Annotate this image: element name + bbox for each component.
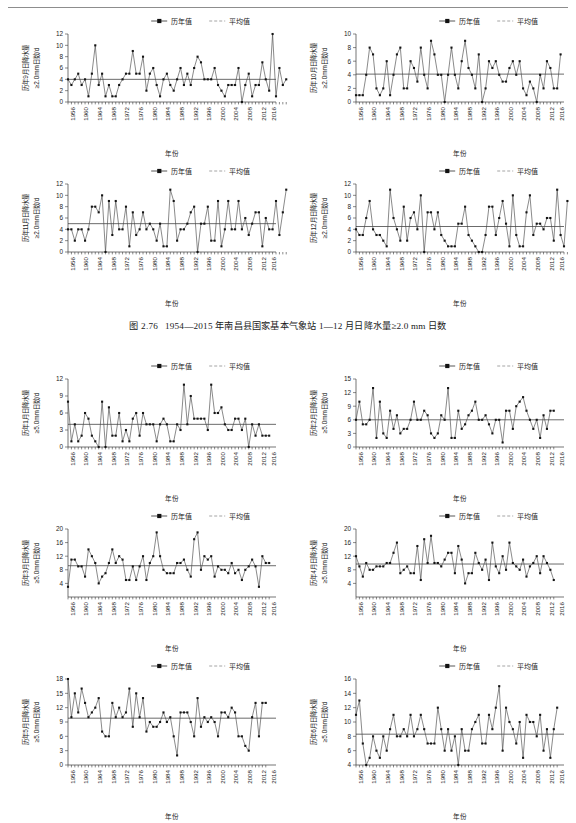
x-tick-label: 1956 bbox=[69, 256, 76, 270]
data-point bbox=[382, 735, 384, 737]
data-point bbox=[430, 211, 432, 213]
data-point bbox=[502, 81, 504, 83]
y-tick-label: 0 bbox=[347, 248, 351, 255]
chart-legend: 历年值平均值 bbox=[439, 512, 538, 521]
data-point bbox=[74, 423, 76, 425]
data-point bbox=[525, 576, 527, 578]
x-tick-label: 1988 bbox=[178, 769, 185, 783]
data-point bbox=[536, 101, 538, 103]
data-point bbox=[104, 735, 106, 737]
data-point bbox=[539, 74, 541, 76]
data-point bbox=[457, 545, 459, 547]
y-tick-label: 10 bbox=[56, 192, 64, 199]
data-point bbox=[197, 531, 199, 533]
data-point bbox=[173, 572, 175, 574]
x-tick-label: 1984 bbox=[164, 601, 171, 615]
data-point bbox=[515, 234, 517, 236]
data-point bbox=[152, 423, 154, 425]
data-point bbox=[525, 211, 527, 213]
data-point bbox=[403, 206, 405, 208]
data-point bbox=[485, 234, 487, 236]
data-point bbox=[389, 94, 391, 96]
data-point bbox=[162, 78, 164, 80]
data-point bbox=[464, 750, 466, 752]
data-point bbox=[491, 728, 493, 730]
data-point bbox=[502, 555, 504, 557]
legend-mean-label: 平均值 bbox=[517, 662, 538, 671]
data-point bbox=[179, 429, 181, 431]
data-point bbox=[440, 74, 442, 76]
data-point bbox=[467, 572, 469, 574]
data-point bbox=[396, 542, 398, 544]
y-tick-label: 0 bbox=[59, 443, 63, 450]
data-point bbox=[423, 74, 425, 76]
x-tick-label: 1960 bbox=[370, 601, 377, 615]
series-line bbox=[68, 532, 269, 586]
chart-cell-nov-2mm: 历年值平均值0246810121956196019641968197219761… bbox=[0, 160, 288, 310]
data-point bbox=[125, 579, 127, 581]
x-tick-label: 2000 bbox=[219, 256, 226, 270]
data-point bbox=[505, 569, 507, 571]
x-tick-label: 1956 bbox=[69, 106, 76, 120]
data-point bbox=[457, 410, 459, 412]
data-point bbox=[461, 728, 463, 730]
data-point bbox=[190, 576, 192, 578]
data-point bbox=[386, 437, 388, 439]
data-point bbox=[234, 711, 236, 713]
x-tick-label: 1972 bbox=[411, 106, 418, 120]
x-tick-label: 1988 bbox=[178, 106, 185, 120]
x-tick-label: 1988 bbox=[466, 106, 473, 120]
y-axis-title-line1: 历年4月日降水量 bbox=[309, 539, 318, 586]
legend-series-marker bbox=[157, 169, 161, 173]
y-tick-label: 12 bbox=[344, 389, 352, 396]
data-point bbox=[522, 396, 524, 398]
data-point bbox=[437, 707, 439, 709]
data-point bbox=[382, 432, 384, 434]
data-point bbox=[440, 414, 442, 416]
x-axis-title: 年份 bbox=[165, 494, 179, 503]
y-tick-label: 12 bbox=[344, 704, 352, 711]
series-line bbox=[356, 190, 567, 252]
data-point bbox=[162, 569, 164, 571]
x-tick-label: 1972 bbox=[411, 451, 418, 465]
data-point bbox=[169, 189, 171, 191]
data-point bbox=[193, 538, 195, 540]
data-point bbox=[125, 711, 127, 713]
data-point bbox=[173, 90, 175, 92]
legend-series-label: 历年值 bbox=[459, 17, 480, 26]
y-axis-title-line1: 历年5月日降水量 bbox=[21, 698, 30, 745]
data-point bbox=[560, 53, 562, 55]
series-line bbox=[68, 385, 269, 447]
data-point bbox=[84, 412, 86, 414]
data-point bbox=[203, 223, 205, 225]
data-point bbox=[403, 87, 405, 89]
data-point bbox=[122, 78, 124, 80]
data-point bbox=[231, 84, 233, 86]
data-point bbox=[125, 206, 127, 208]
data-point bbox=[115, 435, 117, 437]
data-point bbox=[502, 750, 504, 752]
data-point bbox=[529, 721, 531, 723]
data-point bbox=[244, 745, 246, 747]
data-point bbox=[386, 562, 388, 564]
data-point bbox=[210, 384, 212, 386]
y-tick-label: 6 bbox=[59, 409, 63, 416]
data-point bbox=[498, 74, 500, 76]
x-tick-label: 1968 bbox=[398, 106, 405, 120]
data-point bbox=[258, 735, 260, 737]
data-point bbox=[77, 711, 79, 713]
data-point bbox=[512, 60, 514, 62]
data-point bbox=[67, 401, 69, 403]
y-tick-label: 16 bbox=[344, 675, 352, 682]
data-point bbox=[67, 228, 69, 230]
data-point bbox=[125, 73, 127, 75]
legend-mean-label: 平均值 bbox=[229, 662, 250, 671]
series-line bbox=[356, 41, 561, 102]
x-tick-label: 1972 bbox=[123, 451, 130, 465]
data-point bbox=[265, 702, 267, 704]
legend-mean-label: 平均值 bbox=[517, 362, 538, 371]
x-tick-label: 1984 bbox=[164, 769, 171, 783]
x-tick-label: 1996 bbox=[205, 601, 212, 615]
y-tick-label: 14 bbox=[344, 690, 352, 697]
x-tick-label: 2008 bbox=[534, 451, 541, 465]
